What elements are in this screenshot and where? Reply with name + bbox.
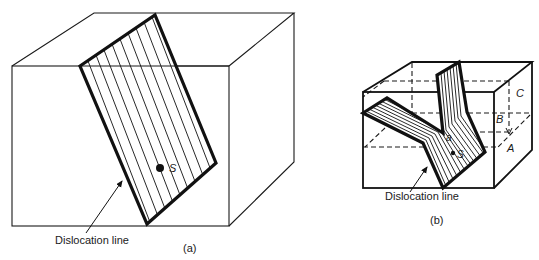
point-s-a-dot: [156, 164, 164, 172]
figure-a: S Dislocation line (a): [12, 13, 294, 254]
slip-plane-a: [80, 15, 229, 230]
figure-b: a S C B A Dislocation line (b): [363, 62, 532, 226]
layer-c-label: C: [516, 87, 524, 99]
dislocation-diagram: S Dislocation line (a): [0, 0, 539, 260]
point-s-b-dot: [451, 151, 455, 155]
dislocation-label-a: Dislocation line: [55, 234, 129, 246]
layer-a-label: A: [506, 142, 514, 154]
cube-a-side-face: [229, 13, 294, 226]
point-s-a-label: S: [169, 162, 177, 174]
caption-b: (b): [430, 214, 443, 226]
caption-a: (a): [183, 242, 196, 254]
dislocation-arrow-a: [86, 181, 122, 233]
point-a-label: a: [446, 132, 452, 143]
point-s-b-label: S: [457, 149, 464, 160]
dislocation-label-b: Dislocation line: [385, 190, 459, 202]
layer-b-label: B: [496, 113, 503, 125]
